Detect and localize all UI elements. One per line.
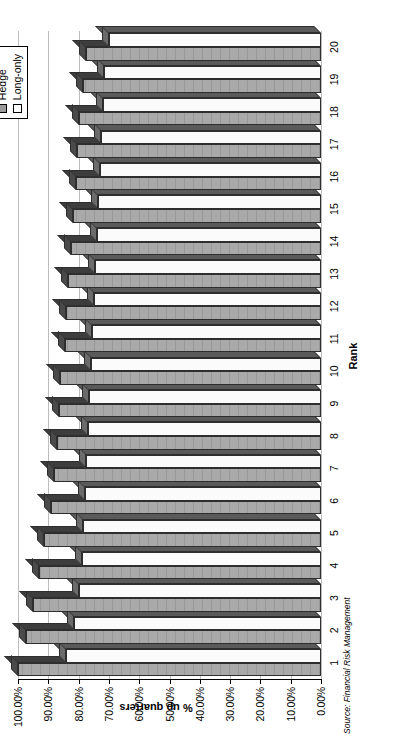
x-axis-tick-label: 9 [328,401,340,407]
bar-front-face [44,533,321,547]
bar-front-face [79,112,321,126]
bar-front-face [92,325,321,339]
bar-front-face [33,598,321,612]
bar-long-only-rank-16[interactable] [100,163,321,177]
y-axis-tick [260,679,261,684]
bar-group: 17 [18,128,321,160]
bar-long-only-rank-4[interactable] [82,552,321,566]
y-axis-tick-label: 20.00% [254,687,266,721]
bar-front-face [71,242,321,256]
bar-front-face [60,371,321,385]
y-axis-tick [109,679,110,684]
bar-group: 7 [18,452,321,484]
x-axis-tick-label: 13 [328,268,340,280]
bar-hedge-rank-11[interactable] [65,339,321,353]
legend-item[interactable]: Hedge [0,54,8,113]
plot-area: 0.00%10.00%20.00%30.00%40.00%50.00%60.00… [18,31,322,680]
bar-group: 2 [18,614,321,646]
bar-hedge-rank-17[interactable] [77,144,321,158]
bar-hedge-rank-6[interactable] [51,501,321,515]
bar-long-only-rank-15[interactable] [98,196,321,210]
bar-long-only-rank-2[interactable] [74,617,321,631]
y-axis-tick-label: 10.00% [285,687,297,721]
bar-hedge-rank-16[interactable] [76,177,321,191]
bar-hedge-rank-14[interactable] [71,242,321,256]
bar-front-face [76,177,321,191]
bar-hedge-rank-2[interactable] [26,630,321,644]
bar-front-face [59,404,321,418]
bar-hedge-rank-1[interactable] [18,663,321,677]
bar-front-face [109,33,321,47]
bar-front-face [51,501,321,515]
legend-swatch [0,104,7,113]
bar-front-face [77,144,321,158]
bar-long-only-rank-14[interactable] [97,228,321,242]
x-axis-tick-label: 6 [328,498,340,504]
legend-item[interactable]: Long-only [11,54,23,113]
bar-hedge-rank-19[interactable] [83,79,321,93]
gridline [321,31,322,679]
bar-front-face [83,520,321,534]
y-axis-tick [48,679,49,684]
y-axis-tick [291,679,292,684]
bar-front-face [101,131,321,145]
y-axis-tick-label: 50.00% [164,687,176,721]
bar-hedge-rank-15[interactable] [73,209,321,223]
y-axis-tick-label: 30.00% [224,687,236,721]
bar-long-only-rank-10[interactable] [91,358,321,372]
bar-hedge-rank-18[interactable] [79,112,321,126]
bar-front-face [91,358,321,372]
bar-long-only-rank-13[interactable] [95,260,321,274]
bar-long-only-rank-17[interactable] [101,131,321,145]
bar-hedge-rank-13[interactable] [68,274,321,288]
bar-long-only-rank-11[interactable] [92,325,321,339]
bar-hedge-rank-7[interactable] [54,468,321,482]
bar-front-face [88,422,321,436]
bar-hedge-rank-20[interactable] [86,47,321,61]
legend: HedgeLong-only [0,46,28,119]
bar-long-only-rank-7[interactable] [86,455,321,469]
bar-front-face [79,584,321,598]
bar-hedge-rank-10[interactable] [60,371,321,385]
bar-group: 20 [18,31,321,63]
source-note: Source: Financial Risk Management [342,597,352,734]
bar-group: 19 [18,63,321,95]
bar-long-only-rank-18[interactable] [103,98,321,112]
bar-long-only-rank-9[interactable] [89,390,321,404]
bar-hedge-rank-3[interactable] [33,598,321,612]
bar-hedge-rank-12[interactable] [66,306,321,320]
y-axis-tick-label: 0.00% [315,687,327,716]
x-axis-tick-label: 5 [328,530,340,536]
y-axis-tick [79,679,80,684]
bar-front-face [82,552,321,566]
bar-long-only-rank-8[interactable] [88,422,321,436]
bar-group: 11 [18,323,321,355]
bar-hedge-rank-8[interactable] [57,436,321,450]
bar-hedge-rank-4[interactable] [39,566,321,580]
bar-front-face [26,630,321,644]
x-axis-tick-label: 19 [328,74,340,86]
bar-group: 3 [18,582,321,614]
x-axis-tick-label: 4 [328,563,340,569]
chart-page: % up quarters 0.00%10.00%20.00%30.00%40.… [0,0,404,742]
bar-front-face [85,487,321,501]
bar-long-only-rank-20[interactable] [109,33,321,47]
y-axis-tick-label: 60.00% [133,687,145,721]
bar-hedge-rank-9[interactable] [59,404,321,418]
bar-long-only-rank-19[interactable] [104,66,321,80]
bar-long-only-rank-5[interactable] [83,520,321,534]
bar-front-face [39,566,321,580]
x-axis-tick-label: 8 [328,433,340,439]
legend-swatch [13,104,22,113]
bar-long-only-rank-3[interactable] [79,584,321,598]
bar-long-only-rank-1[interactable] [66,649,321,663]
bar-hedge-rank-5[interactable] [44,533,321,547]
bar-group: 15 [18,193,321,225]
bar-side-face [95,26,321,33]
bar-front-face [74,617,321,631]
bar-long-only-rank-12[interactable] [94,293,321,307]
x-axis-tick-label: 1 [328,660,340,666]
bar-front-face [97,228,321,242]
bar-group: 1 [18,647,321,679]
bar-long-only-rank-6[interactable] [85,487,321,501]
